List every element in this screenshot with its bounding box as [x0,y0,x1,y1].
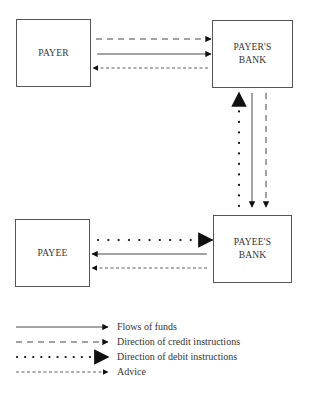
node-payers-bank-label-line1: PAYER'S [234,42,272,52]
node-payees-bank-label-line2: BANK [239,250,267,260]
node-payers-bank-label-line2: BANK [239,55,267,65]
node-payer-label: PAYER [38,47,68,60]
legend-label-flows-of-funds: Flows of funds [117,321,177,333]
node-payee: PAYEE [15,219,90,287]
legend-label-debit-instructions: Direction of debit instructions [117,351,237,363]
node-payees-bank: PAYEE'SBANK [213,215,292,283]
node-payees-bank-label-line1: PAYEE'S [234,237,271,247]
node-payee-label: PAYEE [38,247,68,260]
node-payer: PAYER [16,19,91,87]
legend-label-advice: Advice [117,366,146,378]
legend-label-credit-instructions: Direction of credit instructions [117,336,240,348]
node-payers-bank: PAYER'SBANK [212,20,293,88]
